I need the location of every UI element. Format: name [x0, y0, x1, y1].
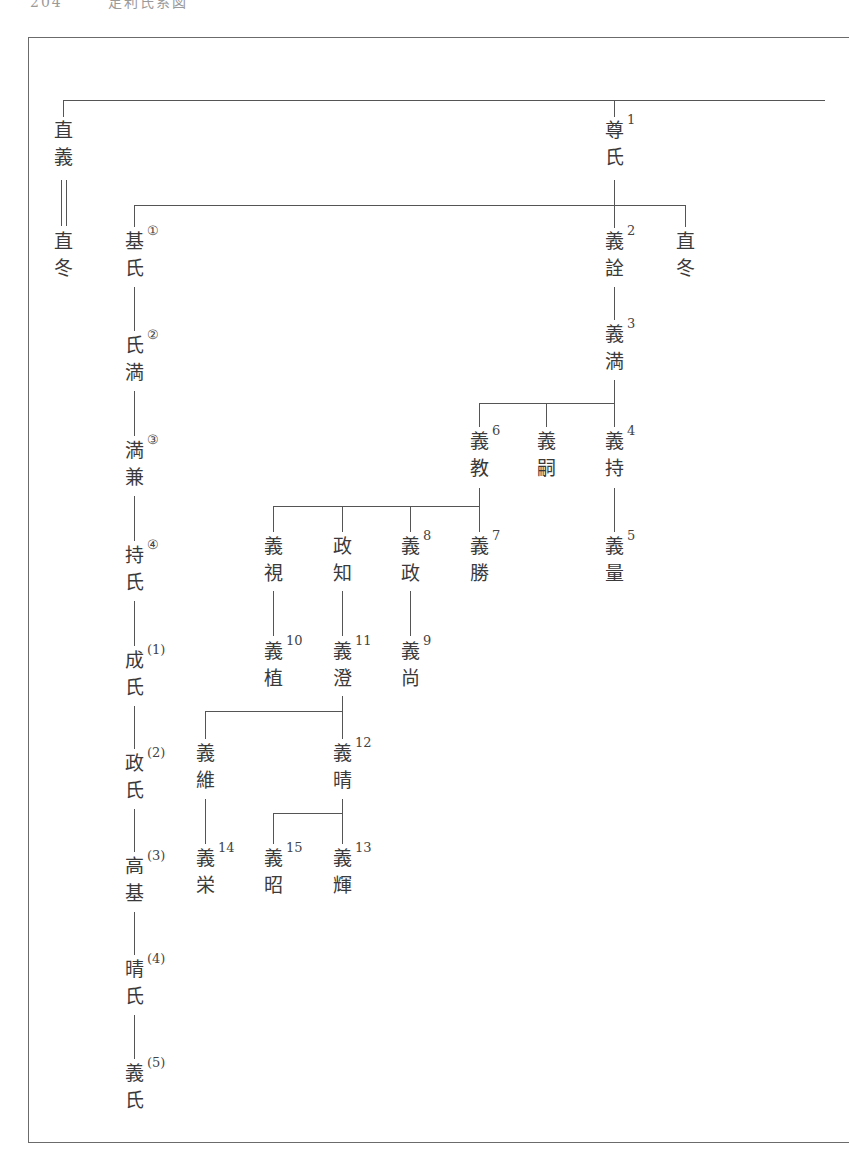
connector-line	[205, 799, 206, 844]
koga-kubo-number: (5)	[147, 1056, 165, 1070]
node-yoshiaki: 義 昭 15	[262, 845, 284, 899]
connector-line	[410, 506, 411, 532]
kubo-number: ④	[147, 538, 159, 552]
node-yoshizumi: 義 澄 11	[331, 638, 353, 692]
kubo-number: ②	[147, 328, 159, 342]
page-header: 204 足利氏系図	[30, 0, 188, 11]
connector-line	[342, 506, 343, 532]
succession-number: 12	[355, 736, 372, 750]
node-yoshimi: 義 視	[262, 533, 284, 587]
succession-number: 13	[355, 841, 372, 855]
connector-line	[134, 496, 135, 541]
node-motouji: 基 氏 ①	[123, 228, 145, 282]
node-masatomo: 政 知	[331, 533, 353, 587]
connector-line	[134, 809, 135, 852]
koga-kubo-number: (4)	[147, 952, 165, 966]
node-yoshimitsu: 義 満 3	[603, 321, 625, 375]
node-yoshiakira: 義 詮 2	[603, 228, 625, 282]
connector-line	[614, 488, 615, 532]
node-haruuji: 晴 氏 (4)	[123, 956, 145, 1010]
koga-kubo-number: (3)	[147, 849, 165, 863]
connector-line	[479, 403, 480, 427]
koga-kubo-number: (1)	[147, 643, 165, 657]
node-tadafuyu-adopted: 直 冬	[52, 228, 74, 282]
succession-number: 15	[286, 841, 303, 855]
connector-line	[134, 1015, 135, 1059]
connector-line	[63, 100, 64, 117]
connector-line	[342, 696, 343, 739]
node-yoshikazu: 義 量 5	[603, 533, 625, 587]
connector-line	[273, 813, 342, 814]
node-yoshiharu: 義 晴 12	[331, 740, 353, 794]
connector-line	[479, 506, 480, 532]
node-mitsukane: 満 兼 ③	[123, 437, 145, 491]
connector-line	[63, 100, 825, 101]
connector-line	[134, 287, 135, 331]
succession-number: 4	[627, 424, 635, 438]
node-takauji: 尊 氏 1	[603, 117, 625, 171]
connector-line	[134, 601, 135, 646]
connector-line	[205, 711, 206, 739]
succession-number: 14	[218, 841, 235, 855]
node-yoshihisa: 義 尚 9	[399, 638, 421, 692]
succession-number: 6	[492, 424, 500, 438]
node-yoshimochi: 義 持 4	[603, 428, 625, 482]
adoption-double-line	[61, 180, 67, 226]
connector-line	[614, 287, 615, 320]
node-yoshitsugu: 義 嗣	[535, 428, 557, 482]
koga-kubo-number: (2)	[147, 746, 165, 760]
node-tadayoshi: 直 義	[52, 117, 74, 171]
succession-number: 7	[492, 529, 500, 543]
succession-number: 5	[627, 529, 635, 543]
connector-line	[410, 591, 411, 636]
succession-number: 2	[627, 224, 635, 238]
node-yoshiteru: 義 輝 13	[331, 845, 353, 899]
node-shigeuji: 成 氏 (1)	[123, 647, 145, 701]
node-yoshimasa: 義 政 8	[399, 533, 421, 587]
node-takamoto: 高 基 (3)	[123, 853, 145, 907]
node-yoshitane: 義 植 10	[262, 638, 284, 692]
node-ujimitsu: 氏 満 ②	[123, 332, 145, 386]
connector-line	[614, 380, 615, 403]
succession-number: 3	[627, 317, 635, 331]
connector-line	[134, 205, 135, 227]
connector-line	[342, 591, 343, 636]
connector-line	[273, 813, 274, 844]
node-yoshihide: 義 栄 14	[194, 845, 216, 899]
connector-line	[134, 205, 685, 206]
node-yoshitsuna: 義 維	[194, 740, 216, 794]
node-mochiuji: 持 氏 ④	[123, 542, 145, 596]
connector-line	[479, 488, 480, 506]
succession-number: 10	[286, 634, 303, 648]
connector-line	[546, 403, 547, 427]
node-yoshiuji: 義 氏 (5)	[123, 1060, 145, 1114]
diagram-frame	[28, 37, 849, 1143]
connector-line	[614, 180, 615, 228]
succession-number: 11	[355, 634, 372, 648]
node-yoshinori: 義 教 6	[468, 428, 490, 482]
node-yoshikatsu: 義 勝 7	[468, 533, 490, 587]
connector-line	[614, 403, 615, 427]
kubo-number: ③	[147, 433, 159, 447]
connector-line	[342, 799, 343, 844]
succession-number: 8	[423, 529, 431, 543]
kubo-number: ①	[147, 224, 159, 238]
connector-line	[134, 391, 135, 436]
node-masauji: 政 氏 (2)	[123, 750, 145, 804]
succession-number: 1	[627, 113, 635, 127]
succession-number: 9	[423, 634, 431, 648]
node-tadafuyu: 直 冬	[674, 228, 696, 282]
connector-line	[273, 591, 274, 636]
connector-line	[134, 706, 135, 749]
connector-line	[614, 100, 615, 117]
connector-line	[685, 205, 686, 227]
connector-line	[273, 506, 274, 532]
connector-line	[273, 506, 479, 507]
connector-line	[134, 912, 135, 955]
connector-line	[205, 711, 342, 712]
